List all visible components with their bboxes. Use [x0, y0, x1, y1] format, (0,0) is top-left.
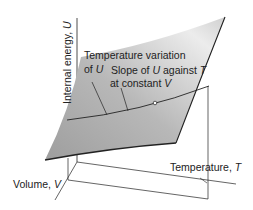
slope-label-line2: at constant V — [110, 77, 172, 89]
slope-label-line1: Slope of U against T — [111, 64, 208, 76]
tangent-point-marker — [153, 101, 157, 105]
front-base-line — [68, 180, 208, 199]
v-axis-label: Volume, V — [13, 178, 62, 190]
temp-variation-label-line1: Temperature variation — [84, 49, 186, 61]
temp-variation-label-line2: of U — [84, 63, 104, 75]
leader-temperature — [200, 178, 207, 183]
t-axis-label: Temperature, T — [170, 161, 243, 173]
internal-energy-surface-diagram: Internal energy, U Temperature variation… — [0, 0, 253, 210]
u-axis-label: Internal energy, U — [61, 21, 73, 104]
